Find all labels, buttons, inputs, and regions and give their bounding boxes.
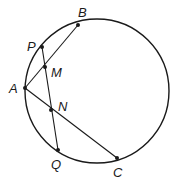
label-P: P	[27, 39, 36, 54]
label-A: A	[8, 81, 18, 96]
circle-chords-diagram: BPMANQC	[0, 0, 173, 180]
label-C: C	[113, 165, 123, 180]
segment-PQ	[42, 47, 58, 150]
point-N	[49, 108, 53, 112]
label-B: B	[78, 5, 87, 20]
point-A	[23, 86, 27, 90]
label-M: M	[51, 65, 62, 80]
point-C	[115, 156, 119, 160]
circle	[25, 19, 169, 163]
point-B	[76, 23, 80, 27]
point-P	[40, 45, 44, 49]
point-M	[43, 65, 47, 69]
label-N: N	[58, 99, 68, 114]
point-Q	[56, 148, 60, 152]
segment-AC	[25, 88, 117, 158]
label-Q: Q	[51, 157, 61, 172]
chords	[25, 25, 117, 158]
points	[23, 23, 119, 160]
